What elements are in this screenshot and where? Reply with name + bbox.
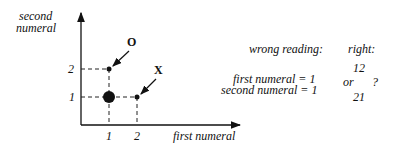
right-heading: right: bbox=[348, 43, 375, 55]
right-option-12: 12 bbox=[353, 62, 365, 74]
arrow-to-o bbox=[113, 51, 129, 66]
point-label-x: X bbox=[154, 64, 163, 76]
y-tick-1: 1 bbox=[69, 91, 75, 103]
x-tick-1: 1 bbox=[106, 130, 112, 142]
y-axis-label-line2: numeral bbox=[16, 22, 56, 34]
point-o-1-2 bbox=[107, 67, 112, 72]
wrong-reading-heading: wrong reading: bbox=[249, 43, 323, 55]
point-x-2-1 bbox=[135, 95, 140, 100]
x-axis-label: first numeral bbox=[173, 130, 235, 142]
wrong-reading-line2: second numeral = 1 bbox=[221, 84, 317, 96]
right-option-21: 21 bbox=[353, 91, 365, 103]
point-label-o: O bbox=[127, 36, 136, 48]
y-tick-2: 2 bbox=[68, 63, 74, 75]
point-large-1-1 bbox=[103, 91, 115, 103]
right-question: ? bbox=[372, 76, 378, 88]
arrow-to-x bbox=[141, 79, 156, 94]
x-tick-2: 2 bbox=[134, 130, 140, 142]
right-or: or bbox=[343, 76, 354, 88]
